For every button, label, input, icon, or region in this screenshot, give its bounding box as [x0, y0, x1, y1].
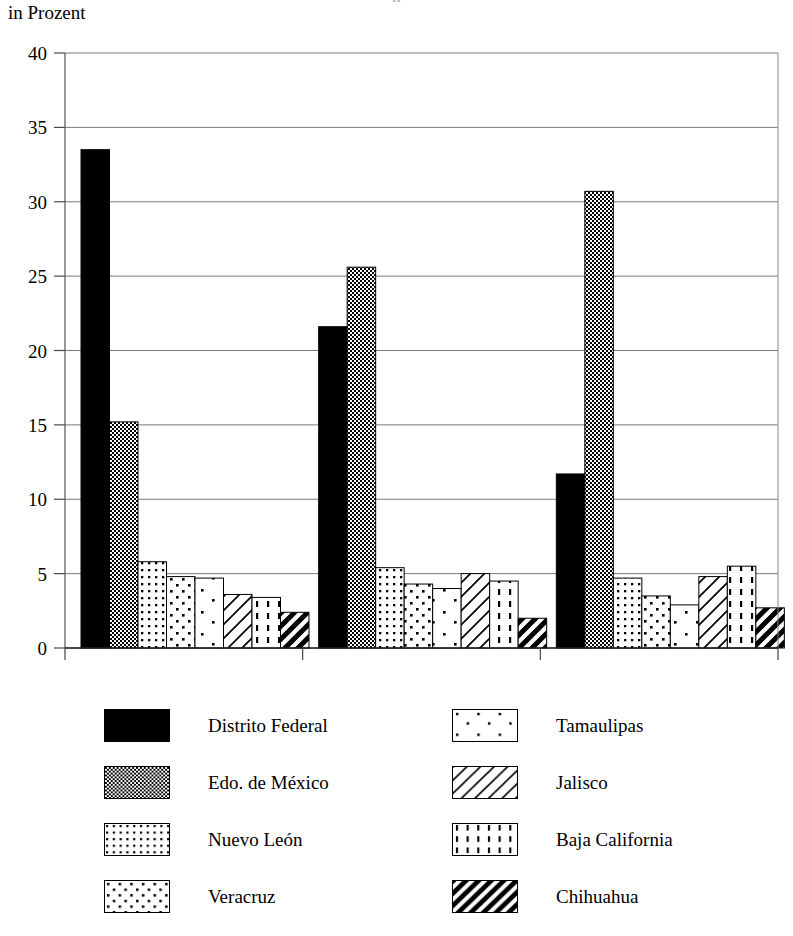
legend-swatch-veracruz	[104, 880, 170, 913]
gridlines	[65, 53, 778, 648]
bar-1980-edo-de-m-xico	[347, 267, 376, 648]
bar-1970-tamaulipas	[195, 578, 224, 648]
bar-1970-veracruz	[167, 577, 196, 648]
legend-item: Nuevo León	[104, 811, 454, 868]
legend-swatch-distrito-federal	[104, 709, 170, 742]
legend-label-tamaulipas: Tamaulipas	[556, 715, 643, 737]
bar-chart: 0510152025303540197019801995	[0, 36, 793, 661]
legend-swatch-tamaulipas	[452, 709, 518, 742]
legend-column-left: Distrito Federal Edo. de México Nuevo Le…	[104, 697, 454, 925]
bar-1980-distrito-federal	[319, 327, 348, 648]
bar-1980-nuevo-le-n	[376, 568, 405, 648]
chart-page: g in Prozent	[0, 0, 793, 936]
legend-swatch-nuevo-leon	[104, 823, 170, 856]
y-tick-label: 0	[38, 638, 48, 659]
legend-column-right: Tamaulipas Jalisco Baja California Chihu…	[452, 697, 793, 925]
legend-swatch-chihuahua	[452, 880, 518, 913]
bar-1980-jalisco	[461, 574, 490, 648]
y-tick-label: 40	[28, 43, 47, 64]
bar-1995-tamaulipas	[670, 605, 699, 648]
clipped-title-fragment: g	[0, 0, 793, 2]
chart-legend: Distrito Federal Edo. de México Nuevo Le…	[0, 697, 793, 925]
y-tick-label: 35	[28, 117, 47, 138]
bar-1970-distrito-federal	[81, 150, 110, 648]
y-tick-label: 25	[28, 266, 47, 287]
bar-1970-chihuahua	[281, 612, 310, 648]
y-tick-label: 15	[28, 415, 47, 436]
bar-1970-nuevo-le-n	[138, 562, 167, 648]
legend-item: Jalisco	[452, 754, 793, 811]
bar-1995-veracruz	[642, 596, 671, 648]
legend-item: Tamaulipas	[452, 697, 793, 754]
bar-1995-nuevo-le-n	[613, 578, 642, 648]
legend-item: Veracruz	[104, 868, 454, 925]
legend-label-distrito-federal: Distrito Federal	[208, 715, 328, 737]
bar-1980-chihuahua	[518, 618, 547, 648]
legend-item: Chihuahua	[452, 868, 793, 925]
legend-label-nuevo-leon: Nuevo León	[208, 829, 302, 851]
axis-unit-label: in Prozent	[8, 2, 86, 24]
bar-1980-veracruz	[404, 584, 433, 648]
bar-1970-jalisco	[224, 594, 253, 648]
y-tick-label: 10	[28, 489, 47, 510]
bar-1970-baja-california	[252, 597, 281, 648]
bar-1980-tamaulipas	[433, 589, 462, 649]
legend-swatch-jalisco	[452, 766, 518, 799]
y-tick-label: 30	[28, 192, 47, 213]
legend-label-edo-de-mexico: Edo. de México	[208, 772, 329, 794]
bar-1995-jalisco	[699, 577, 728, 648]
bar-1970-edo-de-m-xico	[110, 422, 139, 648]
y-tick-label: 5	[38, 564, 48, 585]
legend-item: Baja California	[452, 811, 793, 868]
y-tick-label: 20	[28, 341, 47, 362]
plot-area: 0510152025303540197019801995	[0, 36, 793, 661]
bar-1995-chihuahua	[756, 608, 785, 648]
legend-label-jalisco: Jalisco	[556, 772, 608, 794]
legend-label-baja-california: Baja California	[556, 829, 673, 851]
bar-1995-distrito-federal	[556, 474, 585, 648]
legend-label-veracruz: Veracruz	[208, 886, 276, 908]
legend-swatch-baja-california	[452, 823, 518, 856]
legend-label-chihuahua: Chihuahua	[556, 886, 638, 908]
legend-item: Distrito Federal	[104, 697, 454, 754]
bar-1995-baja-california	[727, 566, 756, 648]
bar-1980-baja-california	[490, 581, 518, 648]
legend-swatch-edo-de-mexico	[104, 766, 170, 799]
legend-item: Edo. de México	[104, 754, 454, 811]
bar-1995-edo-de-m-xico	[585, 191, 614, 648]
